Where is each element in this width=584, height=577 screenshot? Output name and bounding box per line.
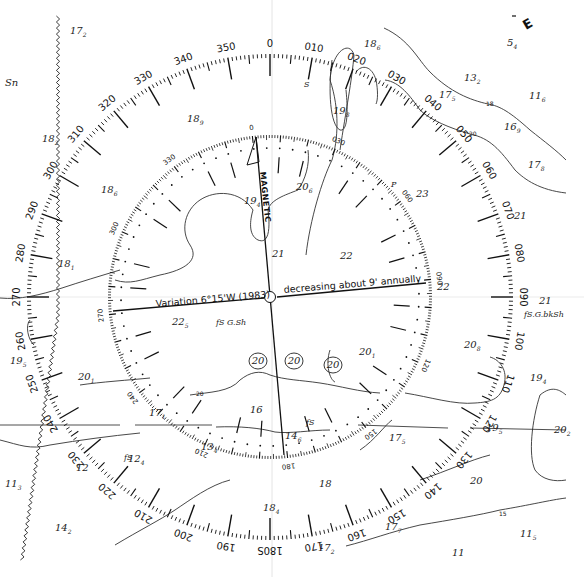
seabed-note: fS [305,418,315,427]
seabed-note: fS G.Sh [215,318,246,327]
depth-sounding: 20 [469,475,483,486]
depth-sounding: 11 [452,547,465,558]
depth-sounding: 21 [271,248,285,259]
contour-depth-label: 20 [196,390,204,397]
depth-sounding: 21 [513,210,527,221]
contour-depth-label: 18 [486,100,494,107]
circled-depth: 20 [287,355,301,366]
seabed-note: S [304,80,310,89]
depth-sounding: 16 [250,404,263,415]
inner-bearing-label: 270 [96,308,105,322]
outer-bearing-label: 270 [11,287,22,306]
outer-bearing-label: 0 [267,38,273,49]
depth-sounding: 22 [436,281,450,292]
circled-depth: 20 [326,359,340,370]
seabed-note: P [390,180,397,189]
depth-sounding: 21 [538,295,552,306]
circled-depth: 20 [251,355,265,366]
inner-bearing-label: 180 [281,461,295,470]
depth-sounding: 22 [339,250,353,261]
depth-sounding: 23 [415,188,429,199]
depth-sounding: 18 [319,478,332,489]
seabed-note: fS.G.bkSh [523,310,564,319]
outer-bearing-label: 180S [257,545,282,556]
contour-depth-label: 20 [469,130,477,137]
depth-sounding: Sn [5,77,18,88]
inner-bearing-label: 0 [249,124,254,132]
contour-depth-label: 15 [499,510,507,517]
nautical-chart: 0010020030040050060070080090100110120130… [0,0,584,577]
depth-sounding: 12 [76,462,89,473]
seabed-note: fS [123,453,133,462]
outer-bearing-label: 090 [518,287,529,306]
